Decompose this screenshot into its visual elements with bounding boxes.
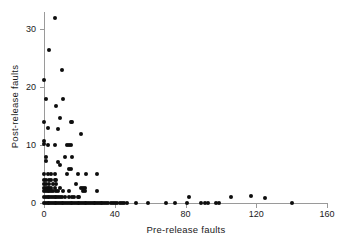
scatter-point <box>70 120 74 124</box>
y-tick-label-10: 10 <box>26 140 36 150</box>
x-tick-label-0: 0 <box>41 209 46 219</box>
scatter-point <box>42 120 46 124</box>
scatter-point <box>46 143 50 147</box>
x-tick-160 <box>327 204 328 208</box>
scatter-point <box>54 178 58 182</box>
scatter-point <box>125 201 129 205</box>
scatter-point <box>84 172 88 176</box>
scatter-point <box>74 182 78 186</box>
scatter-point <box>206 201 210 205</box>
scatter-point <box>63 155 67 159</box>
x-tick-120 <box>256 204 257 208</box>
scatter-point <box>83 189 87 193</box>
scatter-point <box>44 159 48 163</box>
scatter-point <box>53 172 57 176</box>
scatter-point <box>56 127 60 131</box>
scatter-point <box>58 116 62 120</box>
scatter-point <box>95 189 99 193</box>
scatter-point <box>79 132 83 136</box>
scatter-point <box>61 97 65 101</box>
x-tick-label-40: 40 <box>110 209 120 219</box>
scatter-point <box>77 195 81 199</box>
x-tick-label-120: 120 <box>249 209 264 219</box>
scatter-point <box>229 195 233 199</box>
scatter-point <box>95 172 99 176</box>
scatter-point <box>134 201 138 205</box>
scatter-point <box>290 201 294 205</box>
x-tick-label-80: 80 <box>180 209 190 219</box>
scatter-point <box>263 196 267 200</box>
scatter-point <box>46 126 50 130</box>
scatter-points-layer <box>44 12 327 203</box>
scatter-point <box>42 78 46 82</box>
scatter-point <box>173 201 177 205</box>
x-axis-title: Pre-release faults <box>44 224 328 235</box>
scatter-point <box>61 189 65 193</box>
scatter-point <box>70 155 74 159</box>
scatter-point <box>58 163 62 167</box>
plot-area <box>44 12 327 203</box>
x-tick-label-160: 160 <box>319 209 334 219</box>
scatter-point <box>47 48 51 52</box>
scatter-point <box>44 97 48 101</box>
scatter-point <box>76 172 80 176</box>
scatter-point <box>187 195 191 199</box>
scatter-point <box>54 104 58 108</box>
scatter-point <box>56 189 60 193</box>
scatter-point <box>53 143 57 147</box>
y-tick-label-0: 0 <box>31 198 36 208</box>
scatter-point <box>53 16 57 20</box>
scatter-point <box>164 201 168 205</box>
scatter-plot-figure: 04080120160 0102030 Pre-release faults P… <box>0 0 349 245</box>
scatter-point <box>65 172 69 176</box>
scatter-point <box>185 201 189 205</box>
scatter-point <box>67 189 71 193</box>
scatter-point <box>44 155 48 159</box>
scatter-point <box>217 201 221 205</box>
scatter-point <box>146 201 150 205</box>
y-tick-label-20: 20 <box>26 82 36 92</box>
scatter-point <box>249 194 253 198</box>
y-tick-label-30: 30 <box>26 24 36 34</box>
scatter-point <box>69 143 73 147</box>
y-axis-title: Post-release faults <box>9 37 20 177</box>
scatter-point <box>60 68 64 72</box>
